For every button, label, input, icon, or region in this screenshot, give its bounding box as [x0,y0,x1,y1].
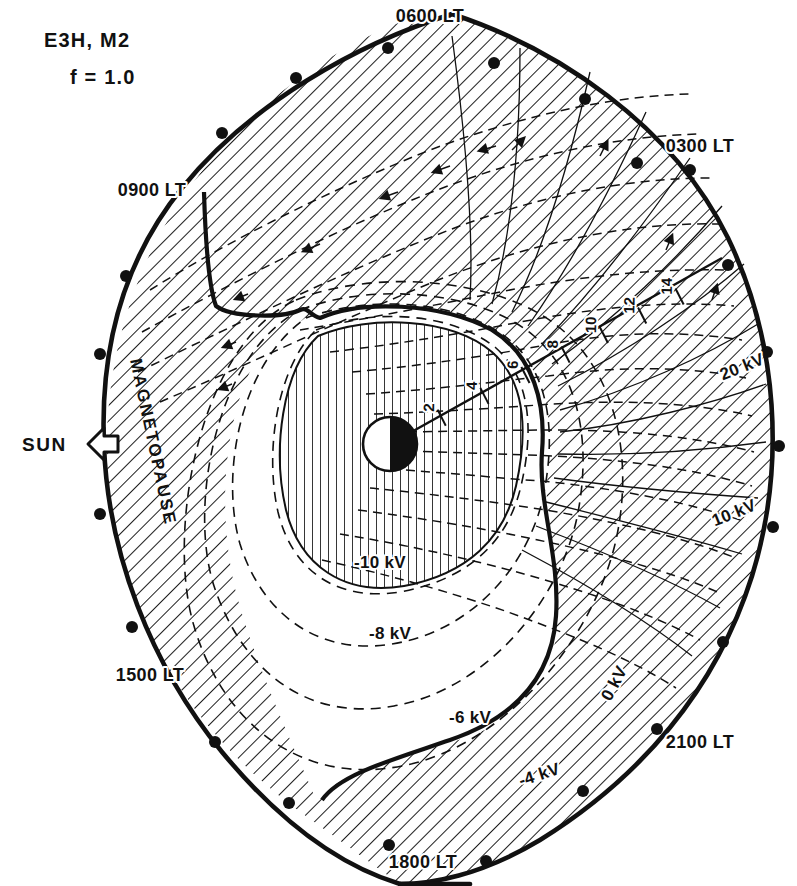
sun-label: SUN [22,434,67,455]
radial-tick-label: 8 [544,340,561,349]
perimeter-dot [94,508,106,520]
radial-tick-label: 12 [620,297,637,314]
perimeter-dot [382,42,394,54]
perimeter-dot [209,736,221,748]
perimeter-dot [480,855,492,867]
radial-tick-label: 14 [658,277,675,295]
radial-tick-label: 6 [504,360,521,369]
figure-canvas: 2468101214 SUN MAGNETOPAUSE E3H, M2 f = … [0,0,797,886]
perimeter-dot [383,839,395,851]
local-time-label: 0300 LT [666,136,735,156]
radial-tick-label: 2 [420,403,437,412]
perimeter-dot [283,797,295,809]
perimeter-dot [126,621,138,633]
convection-potential-figure: 2468101214 SUN MAGNETOPAUSE E3H, M2 f = … [0,0,797,886]
local-time-label: 0900 LT [118,180,187,200]
perimeter-dot [773,440,785,452]
title-line-1: E3H, M2 [44,29,130,51]
perimeter-dot [488,57,500,69]
local-time-label: 2100 LT [666,732,735,752]
perimeter-dot [722,259,734,271]
local-time-label: 1800 LT [389,852,458,872]
perimeter-dot [651,723,663,735]
contour-value-label: -10 kV [354,553,406,572]
perimeter-dot [761,346,773,358]
perimeter-dot [579,93,591,105]
local-time-label: 1500 LT [116,665,185,685]
local-time-label: 0600 LT [396,6,465,26]
radial-tick-label: 10 [582,316,599,333]
radial-tick-label: 4 [463,381,480,390]
contour-value-label: -8 kV [369,624,411,643]
perimeter-dot [717,636,729,648]
perimeter-dot [631,157,643,169]
perimeter-dot [290,72,302,84]
perimeter-dot [216,127,228,139]
perimeter-dot [684,164,696,176]
perimeter-dot [94,348,106,360]
perimeter-dot [767,521,779,533]
contour-value-label: -6 kV [449,708,491,727]
title-line-2: f = 1.0 [70,66,136,88]
perimeter-dot [120,270,132,282]
perimeter-dot [577,785,589,797]
earth-symbol [363,417,417,471]
